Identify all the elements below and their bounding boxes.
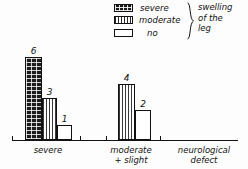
bar-value-group1-moderate: 3 [42, 87, 57, 97]
category-label-neuro-line1: neurological [168, 145, 240, 155]
bar-value-group2-moderate: 4 [118, 73, 135, 83]
severe-swatch-icon [114, 4, 133, 12]
axis-tick [80, 136, 81, 140]
bar-group1-severe [25, 57, 42, 140]
axis-tick [160, 136, 161, 140]
legend-label-severe: severe [140, 4, 169, 13]
plot-area: 6 3 1 4 2 severe moderate + slight neuro… [0, 40, 248, 169]
bar-value-group2-no: 2 [135, 99, 151, 109]
legend-item-severe: severe [114, 3, 169, 13]
category-label-moderate-line1: moderate [98, 145, 164, 155]
category-label-neurological-defect: neurological defect [168, 145, 240, 165]
category-label-severe: severe [16, 145, 80, 155]
legend-caption-line-3: leg [198, 23, 232, 34]
moderate-swatch-icon [114, 16, 133, 24]
axis-tick [12, 136, 13, 140]
chart-legend: severe moderate no swelling of the leg [114, 2, 246, 40]
no-swatch-icon [114, 29, 133, 37]
curly-brace-icon [186, 2, 195, 40]
bar-group2-no [135, 110, 151, 140]
category-label-neuro-line2: defect [168, 155, 240, 165]
bar-value-group1-severe: 6 [25, 46, 42, 56]
bar-group2-moderate [118, 84, 135, 140]
legend-caption-line-1: swelling [198, 2, 232, 13]
bar-group1-no [57, 125, 72, 140]
legend-item-no: no [114, 28, 158, 38]
bar-value-group1-no: 1 [57, 114, 72, 124]
category-label-moderate-line2: + slight [98, 155, 164, 165]
legend-group-caption: swelling of the leg [198, 2, 232, 34]
axis-tick [106, 136, 107, 140]
bar-group1-moderate [42, 98, 57, 140]
x-axis-baseline [12, 140, 238, 141]
bar-chart-figure: severe moderate no swelling of the leg [0, 0, 248, 169]
category-label-severe-line1: severe [16, 145, 80, 155]
legend-label-no: no [147, 29, 158, 38]
legend-caption-line-2: of the [198, 13, 232, 24]
legend-item-moderate: moderate [114, 15, 180, 25]
category-label-moderate-slight: moderate + slight [98, 145, 164, 165]
legend-label-moderate: moderate [139, 16, 180, 25]
